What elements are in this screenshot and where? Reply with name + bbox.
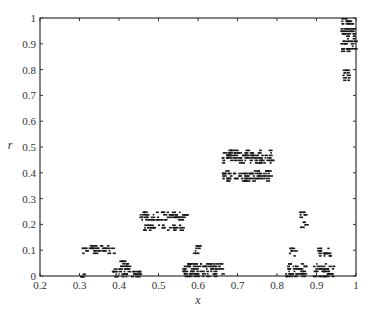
data-point [91,245,93,247]
data-point [320,276,324,278]
data-point [179,224,181,226]
data-point [197,266,201,268]
data-point [238,175,240,177]
data-point [301,268,303,270]
data-point [351,43,354,45]
data-point [324,271,327,273]
data-point [253,157,255,159]
data-point [341,18,344,20]
data-point [252,180,254,182]
data-point [343,28,347,30]
data-point [331,273,333,275]
data-point [332,266,335,268]
data-point [314,276,317,278]
data-point [193,266,197,268]
data-point [95,253,99,255]
data-point [295,273,298,275]
data-point [354,48,358,50]
data-point [124,273,128,275]
data-point [214,266,216,268]
data-point [102,248,105,250]
data-point [97,248,100,250]
data-point [115,276,118,278]
data-point [262,178,266,180]
data-point [239,152,243,154]
data-point [258,155,260,157]
data-point [346,31,349,33]
data-point [207,273,209,275]
data-point [345,70,348,72]
data-point [241,173,244,175]
data-point [228,178,231,180]
data-point [194,263,196,265]
data-point [206,263,208,265]
data-point [261,155,264,157]
x-tick-label: 0.4 [112,279,126,291]
data-point [116,273,118,275]
data-point [151,217,156,219]
data-point [182,217,184,219]
data-point [244,180,248,182]
data-point [119,261,122,263]
data-point [300,214,302,216]
y-tick-labels: 00.10.20.30.40.50.60.70.80.91 [22,12,36,282]
data-point [247,157,249,159]
data-point [149,229,152,231]
data-point [214,273,218,275]
data-point [234,155,238,157]
data-point [139,217,143,219]
data-point [252,178,255,180]
data-point [164,219,166,221]
data-point [244,173,246,175]
data-point [173,229,175,231]
data-point [196,271,199,273]
data-point [230,152,233,154]
data-point [319,255,322,257]
data-point [325,263,327,265]
data-point [195,250,197,252]
data-point [221,273,225,275]
data-point [347,38,349,40]
data-point [152,227,154,229]
data-point [234,178,236,180]
data-point [326,276,330,278]
data-point [230,175,233,177]
data-point [172,212,176,214]
data-point [114,268,118,270]
data-point [144,227,146,229]
data-point [245,152,249,154]
data-point [170,217,172,219]
data-point [218,266,221,268]
data-point [302,271,304,273]
data-point [180,229,184,231]
data-point [113,253,116,255]
data-point [253,175,255,177]
data-point [329,255,332,257]
data-point [269,155,273,157]
data-point [267,157,269,159]
data-point [344,72,347,74]
data-point [222,157,224,159]
data-point [316,263,318,265]
data-point [167,212,169,214]
data-point [234,173,237,175]
data-point [269,150,271,152]
data-point [118,268,121,270]
data-point [221,263,223,265]
data-point [237,157,239,159]
data-point [315,271,318,273]
data-point [251,173,254,175]
x-tick-label: 0.5 [152,279,166,291]
data-point [268,173,270,175]
data-point [317,266,321,268]
data-point [187,266,190,268]
data-point [254,170,258,172]
data-point [246,150,248,152]
data-point [195,248,197,250]
data-point [345,18,347,20]
data-point [347,51,351,53]
data-point [258,170,261,172]
data-point [346,33,348,35]
data-point [195,253,198,255]
data-point [162,212,164,214]
